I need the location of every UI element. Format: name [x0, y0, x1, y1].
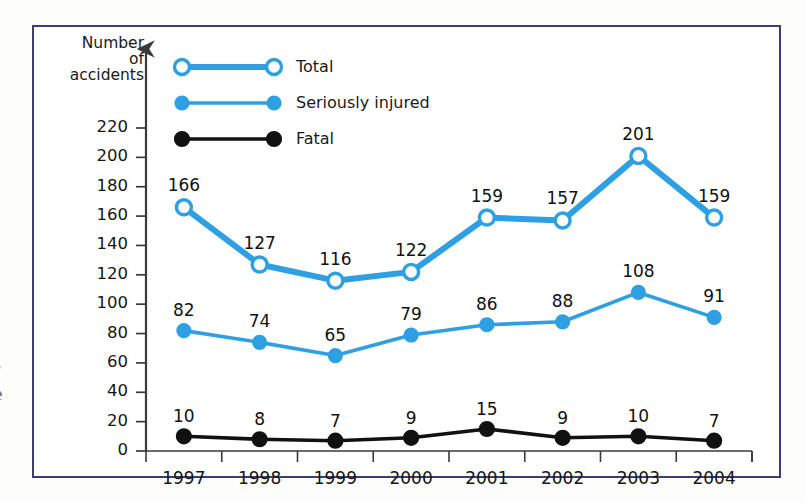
data-label-fatal-1998: 8 [230, 409, 290, 429]
data-label-seriously-injured-2000: 79 [381, 304, 441, 324]
legend-item-fatal: Fatal [296, 129, 334, 148]
data-label-seriously-injured-2001: 86 [457, 294, 517, 314]
y-axis-tick-200: 200 [70, 146, 128, 165]
data-label-total-1997: 166 [154, 175, 214, 195]
data-label-fatal-1997: 10 [154, 406, 214, 426]
chart-frame: Number of accidents 02040608010012014016… [32, 25, 781, 478]
data-label-total-1999: 116 [305, 249, 365, 269]
x-axis-tick-1998: 1998 [225, 468, 295, 488]
data-label-seriously-injured-2004: 91 [684, 286, 744, 306]
x-axis-tick-2004: 2004 [679, 468, 749, 488]
y-axis-tick-0: 0 [70, 440, 128, 459]
legend-item-total: Total [296, 57, 333, 76]
page-edge-fragment-2: e [0, 383, 2, 405]
data-label-seriously-injured-1998: 74 [230, 311, 290, 331]
data-label-seriously-injured-1999: 65 [305, 325, 365, 345]
y-axis-tick-60: 60 [70, 352, 128, 371]
data-label-fatal-2002: 9 [533, 408, 593, 428]
x-axis-tick-2003: 2003 [603, 468, 673, 488]
data-label-fatal-2001: 15 [457, 399, 517, 419]
figure-page: r e - Number of accidents 02040608010012… [0, 0, 806, 502]
data-label-seriously-injured-2002: 88 [533, 291, 593, 311]
data-label-total-2004: 159 [684, 186, 744, 206]
y-axis-tick-40: 40 [70, 381, 128, 400]
y-axis-tick-120: 120 [70, 264, 128, 283]
data-label-total-2001: 159 [457, 186, 517, 206]
x-axis-tick-2002: 2002 [528, 468, 598, 488]
legend-item-seriously-injured: Seriously injured [296, 93, 430, 112]
data-label-total-2003: 201 [608, 124, 668, 144]
data-label-fatal-1999: 7 [305, 411, 365, 431]
x-axis-tick-2001: 2001 [452, 468, 522, 488]
x-axis-tick-1999: 1999 [300, 468, 370, 488]
data-label-fatal-2004: 7 [684, 411, 744, 431]
x-axis-tick-1997: 1997 [149, 468, 219, 488]
y-axis-tick-100: 100 [70, 293, 128, 312]
data-label-total-2000: 122 [381, 240, 441, 260]
y-axis-tick-180: 180 [70, 176, 128, 195]
data-label-total-2002: 157 [533, 188, 593, 208]
y-axis-tick-140: 140 [70, 234, 128, 253]
y-axis-tick-80: 80 [70, 323, 128, 342]
y-axis-tick-20: 20 [70, 411, 128, 430]
line-chart: Number of accidents 02040608010012014016… [34, 27, 783, 480]
data-label-seriously-injured-1997: 82 [154, 300, 214, 320]
data-label-fatal-2003: 10 [608, 406, 668, 426]
data-label-seriously-injured-2003: 108 [608, 261, 668, 281]
y-axis-tick-160: 160 [70, 205, 128, 224]
x-axis-tick-2000: 2000 [376, 468, 446, 488]
y-axis-tick-220: 220 [70, 117, 128, 136]
data-label-fatal-2000: 9 [381, 408, 441, 428]
data-label-total-1998: 127 [230, 233, 290, 253]
